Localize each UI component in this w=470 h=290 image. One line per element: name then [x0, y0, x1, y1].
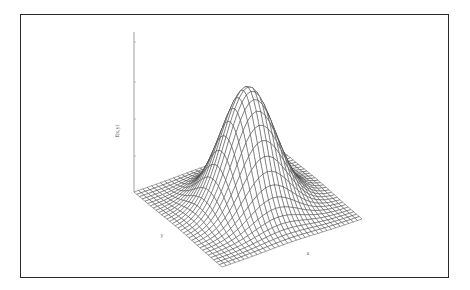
- z-axis-label: f(x,y): [114, 124, 121, 137]
- wireframe-mesh: [134, 87, 362, 267]
- z-axis: [134, 32, 136, 192]
- surface-plot: f(x,y) y x: [0, 0, 470, 290]
- x-axis-label: x: [307, 250, 310, 256]
- y-axis-label: y: [160, 232, 164, 239]
